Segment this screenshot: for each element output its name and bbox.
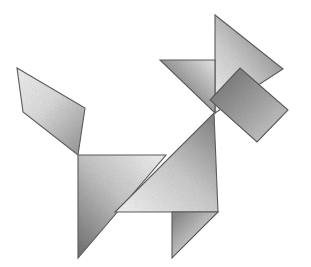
- tangram-figure: [0, 0, 311, 267]
- tangram-canvas: [0, 0, 311, 267]
